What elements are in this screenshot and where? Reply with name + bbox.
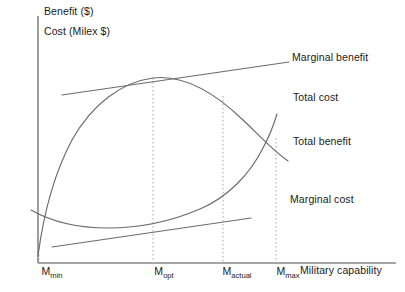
label-total-cost: Total cost bbox=[293, 92, 338, 104]
tick-sub-m-max: max bbox=[285, 271, 299, 280]
tick-label-m-opt: Mopt bbox=[154, 266, 173, 280]
tick-sub-m-opt: opt bbox=[163, 271, 174, 280]
x-axis-title: Military capability bbox=[300, 265, 382, 277]
label-total-benefit: Total benefit bbox=[293, 136, 351, 148]
tick-base-m-opt: M bbox=[154, 265, 163, 277]
economics-diagram: Benefit ($) Cost (Milex $) Military capa… bbox=[0, 0, 405, 292]
tick-base-m-min: M bbox=[41, 265, 50, 277]
marginal-benefit-line bbox=[62, 62, 289, 95]
label-marginal-benefit: Marginal benefit bbox=[292, 52, 368, 64]
total-benefit-curve bbox=[38, 78, 288, 256]
y-axis-title-benefit: Benefit ($) bbox=[44, 6, 94, 18]
marginal-cost-line bbox=[52, 218, 251, 247]
tick-label-m-max: Mmax bbox=[276, 266, 299, 280]
y-axis-title-cost: Cost (Milex $) bbox=[44, 26, 110, 38]
tick-base-m-actual: M bbox=[222, 265, 231, 277]
tick-label-m-actual: Mactual bbox=[222, 266, 251, 280]
tick-label-m-min: Mmin bbox=[41, 266, 62, 280]
tick-base-m-max: M bbox=[276, 265, 285, 277]
tick-sub-m-actual: actual bbox=[231, 271, 251, 280]
total-cost-curve bbox=[31, 114, 277, 228]
tick-sub-m-min: min bbox=[50, 271, 62, 280]
label-marginal-cost: Marginal cost bbox=[290, 194, 354, 206]
